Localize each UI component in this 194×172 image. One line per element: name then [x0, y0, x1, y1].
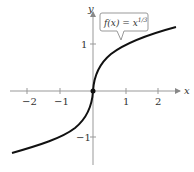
y-tick-label: −1	[76, 132, 91, 143]
x-axis-label: x	[184, 85, 190, 96]
function-annotation: f(x) = x1/3	[100, 13, 148, 40]
y-tick-label: 1	[81, 39, 87, 50]
x-tick-label: −2	[22, 96, 37, 107]
x-tick-label: 1	[123, 96, 129, 107]
function-graph: −2 −1 1 2 1 −1 x y f(x) = x1/3	[0, 0, 194, 172]
x-tick-label: −1	[54, 96, 69, 107]
x-tick-label: 2	[155, 96, 161, 107]
y-axis-label: y	[87, 3, 94, 14]
origin-point	[91, 89, 96, 94]
